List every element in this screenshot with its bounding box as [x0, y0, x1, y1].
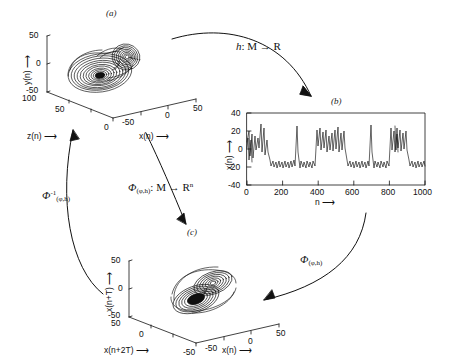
panel-b-x-tick-600: 600: [345, 187, 359, 197]
panel-c-axes: [129, 260, 279, 346]
panel-a-y-axis-name: y(n): [22, 70, 32, 85]
panel-c-x-axis-label: x(n) ⟶: [222, 345, 252, 355]
figure-canvas: (a) (b) (c) 50 0 -50 100 50 0 -50 0 50 y…: [0, 0, 455, 361]
panel-b-y-axis-label: x(n) ⟶: [224, 140, 234, 170]
panel-b-y-axis-arrow: ⟶: [224, 140, 234, 153]
panel-c-z-axis-label: x(n+2T) ⟶: [104, 345, 149, 355]
panel-a-x-axis-name: x(n): [139, 131, 154, 141]
panel-a-x-axis-label: x(n) ⟶: [139, 131, 169, 141]
panel-c-y-axis-arrow: ⟶: [104, 272, 114, 285]
panel-a-z-axis-name: z(n): [27, 131, 42, 141]
panel-c-attractor-curve: [169, 266, 236, 320]
panel-a-z-axis-arrow: ⟶: [44, 131, 57, 141]
panel-b-x-tick-800: 800: [381, 187, 395, 197]
panel-a-y-tick-50: 50: [29, 30, 38, 40]
panel-b-x-axis-arrow: ⟶: [322, 197, 335, 207]
panel-c-z-axis-arrow: ⟶: [136, 345, 149, 355]
panel-a-attractor-curve: [66, 41, 143, 96]
panel-c-x-axis-name: x(n): [222, 345, 237, 355]
panel-a-y-axis-arrow: ⟶: [22, 55, 32, 68]
panel-b-y-axis-name: x(n): [224, 155, 234, 170]
map-phi-relation: : M → R: [150, 181, 189, 193]
arrow-a-to-c: [146, 133, 186, 224]
map-label-phi-right: Φ(φ,h): [300, 253, 322, 267]
map-phi-superscript: n: [190, 181, 194, 189]
map-h-relation: : M → R: [242, 40, 281, 52]
panel-b-x-axis-label: n ⟶: [315, 197, 335, 207]
panel-a-axes: [47, 35, 196, 121]
panel-c-y-axis-label: x(n+T) ⟶: [104, 272, 114, 312]
panel-c-y-axis-name: x(n+T): [104, 287, 114, 312]
panel-c-z-axis-name: x(n+2T): [104, 345, 134, 355]
panel-b-y-tick-20: 20: [231, 126, 240, 136]
panel-a-x-tick-50: 50: [193, 103, 202, 113]
panel-a-label: (a): [106, 8, 117, 18]
panel-b-label: (b): [331, 96, 342, 106]
panel-c-z-tick-neg50: -50: [183, 347, 195, 357]
panel-a-z-tick-0: 0: [104, 122, 109, 132]
panel-a-x-axis-arrow: ⟶: [156, 131, 169, 141]
panel-a-y-tick-0: 0: [36, 58, 41, 68]
panel-b-x-axis-name: n: [315, 197, 320, 207]
panel-b-x-tick-200: 200: [274, 187, 288, 197]
panel-b-timeseries-curve: [247, 124, 425, 168]
panel-c-y-tick-0: 0: [118, 283, 123, 293]
panel-b-y-tick-neg40: -40: [228, 180, 240, 190]
panel-b-x-tick-400: 400: [310, 187, 324, 197]
panel-a-z-tick-100: 100: [22, 93, 36, 103]
panel-c-x-axis-arrow: ⟶: [239, 345, 252, 355]
arrow-c-to-a: [67, 130, 103, 294]
map-label-h: h: M → R: [236, 40, 281, 52]
map-phi-subscript: (φ,h): [136, 187, 150, 195]
map-label-phi-forward: Φ(φ,h): M → Rn: [128, 181, 193, 195]
map-phi-right-subscript: (φ,h): [308, 259, 322, 267]
panel-c-y-tick-50: 50: [111, 255, 120, 265]
panel-c-x-tick-neg50: -50: [205, 343, 217, 353]
panel-a-z-axis-label: z(n) ⟶: [27, 131, 57, 141]
panel-a-x-tick-0: 0: [165, 110, 170, 120]
panel-a-y-axis-label: y(n) ⟶: [22, 55, 32, 85]
panel-a-x-tick-neg50: -50: [122, 117, 134, 127]
panel-b-y-tick-40: 40: [231, 108, 240, 118]
panel-c-x-tick-50: 50: [276, 328, 285, 338]
panel-b-x-tick-1000: 1000: [413, 187, 432, 197]
panel-c-z-tick-50: 50: [111, 318, 120, 328]
panel-b-y-tick-0: 0: [238, 144, 243, 154]
panel-b-x-tick-0: 0: [244, 187, 249, 197]
panel-c-label: (c): [187, 227, 197, 237]
panel-a-z-tick-50: 50: [55, 104, 64, 114]
map-phi-inv-subscript: (φ,h): [56, 195, 70, 203]
map-label-phi-inverse: Φ-1(φ,h): [42, 189, 70, 203]
panel-c-z-tick-0: 0: [139, 329, 144, 339]
